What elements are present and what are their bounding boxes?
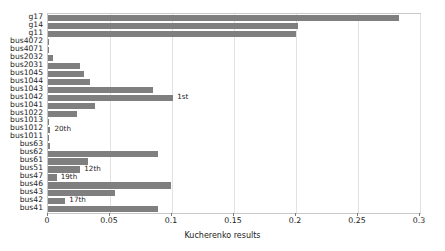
bar-bus41 [48,206,158,212]
x-tick-label-0.25: 0.25 [348,216,365,226]
bar-bus1045 [48,71,84,77]
x-tick-label-0: 0 [45,216,50,226]
bar-bus2032 [48,55,53,61]
bar-bus1013 [48,119,49,125]
rank-annotation-bus51: 12th [84,165,101,174]
bar-bus62 [48,151,158,157]
bar-g17 [48,15,399,21]
y-axis-category-labels: g17g14g11bus4072bus4071bus2032bus2031bus… [0,13,45,212]
x-axis-ticks: 00.050.10.150.20.250.3 [47,213,419,225]
bar-bus47 [48,174,57,180]
bar-bus61 [48,158,88,164]
bar-bus1044 [48,79,90,85]
x-tick-label-0.05: 0.05 [100,216,117,226]
y-axis-label-bus41: bus41 [20,204,43,212]
bar-bus63 [48,143,50,149]
x-tick-label-0.3: 0.3 [413,216,425,226]
plot-area: 1st20th12th19th17th [47,13,421,214]
bar-bus1043 [48,87,153,93]
x-tick-label-0.15: 0.15 [224,216,241,226]
x-tick-label-0.2: 0.2 [289,216,301,226]
bar-bus1011 [48,135,49,141]
bar-bus4071 [48,47,49,53]
x-axis-title: Kucherenko results [0,231,445,240]
gridline [420,14,421,213]
bar-bus46 [48,182,171,188]
bar-bus42 [48,198,65,204]
bar-bus1042 [48,95,173,101]
bar-bus1041 [48,103,95,109]
bar-rows: 1st20th12th19th17th [48,14,420,213]
bar-bus1022 [48,111,77,117]
bar-bus1012 [48,127,50,133]
kucherenko-bar-chart: g17g14g11bus4072bus4071bus2032bus2031bus… [0,0,445,251]
rank-annotation-bus42: 17th [69,196,86,205]
bar-bus4072 [48,39,49,45]
bar-g11 [48,31,296,37]
rank-annotation-bus1012: 20th [54,125,71,134]
bar-bus2031 [48,63,80,69]
rank-annotation-bus1042: 1st [177,93,188,102]
x-tick-label-0.1: 0.1 [165,216,177,226]
rank-annotation-bus47: 19th [61,173,78,182]
bar-g14 [48,23,298,29]
